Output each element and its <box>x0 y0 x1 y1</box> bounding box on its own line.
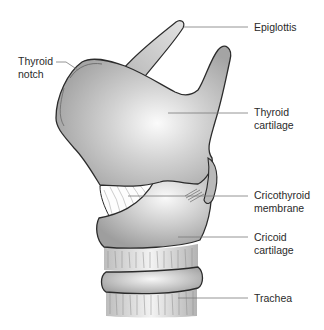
label-text: Thyroid <box>18 55 53 68</box>
larynx-diagram <box>0 0 324 330</box>
label-text: cartilage <box>254 244 294 257</box>
label-text: Trachea <box>254 292 292 305</box>
label-text: Cricothyroid <box>254 189 310 202</box>
label-text: Cricoid <box>254 231 294 244</box>
label-cricothyroid-membrane: Cricothyroid membrane <box>254 189 310 214</box>
label-text: Epiglottis <box>254 21 297 34</box>
label-trachea: Trachea <box>254 292 292 305</box>
tracheal-ring <box>102 267 203 294</box>
label-thyroid-cartilage: Thyroid cartilage <box>254 106 294 131</box>
label-thyroid-notch: Thyroid notch <box>18 55 53 80</box>
label-text: membrane <box>254 202 310 215</box>
label-cricoid-cartilage: Cricoid cartilage <box>254 231 294 256</box>
label-text: Thyroid <box>254 106 294 119</box>
label-text: cartilage <box>254 119 294 132</box>
label-text: notch <box>18 68 53 81</box>
label-epiglottis: Epiglottis <box>254 21 297 34</box>
